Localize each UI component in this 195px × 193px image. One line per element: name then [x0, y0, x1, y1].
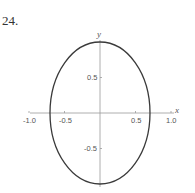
x-tick-label: 0.5	[131, 116, 141, 125]
y-axis-label: y	[96, 29, 101, 39]
ellipse-plot: -1.0 -0.5 0.5 1.0 0.5 -0.5 y x	[0, 0, 195, 193]
y-tick-label: -0.5	[84, 144, 97, 153]
x-tick-label: 1.0	[166, 116, 176, 125]
x-tick-label: -1.0	[23, 116, 36, 125]
x-axis-label: x	[174, 105, 179, 115]
x-tick-label: -0.5	[59, 116, 72, 125]
y-tick-label: 0.5	[87, 73, 97, 82]
